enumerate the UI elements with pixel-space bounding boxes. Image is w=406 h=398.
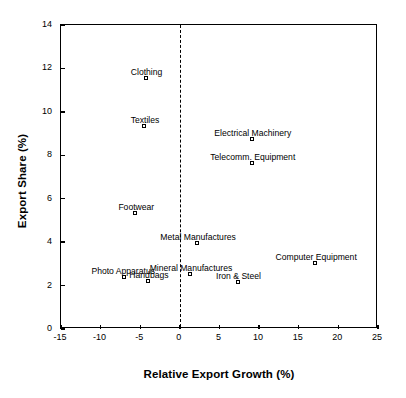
y-axis-title: Export Share (%) (16, 101, 28, 261)
data-point-label: Textiles (65, 115, 225, 125)
y-tick-mark (61, 241, 65, 242)
x-tick-label: 5 (204, 332, 234, 342)
data-point-label: Clothing (67, 67, 227, 77)
x-tick-label: 0 (164, 332, 194, 342)
y-tick-label: 14 (28, 19, 52, 29)
y-tick-label: 2 (28, 280, 52, 290)
y-tick-mark (61, 24, 65, 25)
x-axis-title: Relative Export Growth (%) (60, 368, 378, 380)
y-tick-mark (61, 285, 65, 286)
x-tick-label: -10 (85, 332, 115, 342)
data-point-label: Electrical Machinery (173, 128, 333, 138)
x-tick-mark (298, 325, 299, 329)
x-tick-label: 15 (283, 332, 313, 342)
x-tick-label: 25 (362, 332, 392, 342)
y-tick-mark (61, 111, 65, 112)
x-tick-mark (179, 325, 180, 329)
y-tick-label: 6 (28, 193, 52, 203)
y-tick-label: 4 (28, 236, 52, 246)
x-tick-mark (100, 325, 101, 329)
data-point-label: Metal Manufactures (118, 232, 278, 242)
x-tick-mark (338, 325, 339, 329)
plot-area: ClothingTextilesElectrical MachineryTele… (60, 24, 377, 328)
data-point-label: Footwear (56, 202, 216, 212)
x-tick-mark (219, 325, 220, 329)
y-tick-mark (61, 198, 65, 199)
x-tick-label: -15 (45, 332, 75, 342)
data-point-label: Computer Equipment (236, 252, 396, 262)
scatter-chart-figure: Export Share (%) Relative Export Growth … (0, 0, 406, 398)
x-tick-mark (140, 325, 141, 329)
y-tick-label: 8 (28, 149, 52, 159)
data-point-label: Telecomm. Equipment (173, 152, 333, 162)
y-tick-mark (61, 68, 65, 69)
x-tick-label: 10 (243, 332, 273, 342)
y-tick-mark (61, 155, 65, 156)
data-point-label: Handbags (69, 270, 229, 280)
y-tick-label: 10 (28, 106, 52, 116)
x-tick-mark (258, 325, 259, 329)
x-tick-mark (377, 325, 378, 329)
y-tick-label: 12 (28, 62, 52, 72)
x-tick-label: 20 (322, 332, 352, 342)
x-tick-mark (60, 325, 61, 329)
x-tick-label: -5 (124, 332, 154, 342)
